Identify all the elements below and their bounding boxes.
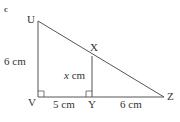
point-u-label: U	[27, 13, 35, 25]
right-angle-v-icon	[38, 91, 44, 97]
question-marker: c	[4, 4, 8, 14]
length-uv-label: 6 cm	[4, 55, 26, 67]
length-vy-label: 5 cm	[53, 98, 75, 110]
length-yz-label: 6 cm	[120, 98, 142, 110]
point-x-label: X	[90, 41, 98, 53]
point-y-label: Y	[88, 98, 96, 110]
side-uz	[38, 21, 164, 97]
similar-triangles-diagram: c U V X Y Z 6 cm x cm 5 cm 6 cm	[0, 0, 180, 122]
right-angle-y-icon	[86, 91, 92, 97]
length-xy-label: x cm	[63, 69, 86, 81]
point-v-label: V	[28, 96, 36, 108]
point-z-label: Z	[167, 90, 174, 102]
